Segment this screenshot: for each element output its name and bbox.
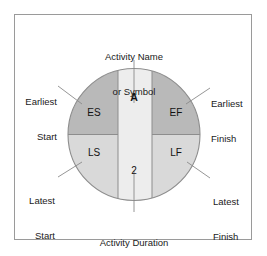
leader-line-latest-finish <box>187 162 210 178</box>
cell-label-lf: LF <box>159 147 193 158</box>
callout-latest-finish-line2: Finish <box>213 231 267 243</box>
callout-latest-start-line2: Start <box>0 230 55 242</box>
callout-earliest-start-line1: Earliest <box>0 96 57 108</box>
callout-earliest-start: Earliest Start <box>0 73 57 165</box>
activity-duration-label: 2 <box>119 165 149 176</box>
leader-line-earliest-finish <box>186 88 210 104</box>
callout-latest-finish: Latest Finish <box>213 173 267 256</box>
callout-earliest-finish-line1: Earliest <box>211 98 267 110</box>
callout-earliest-finish: Earliest Finish <box>211 75 267 167</box>
callout-latest-start-line1: Latest <box>0 195 55 207</box>
diagram-page: A 2 ES EF LS LF Activity Name or Symbol … <box>0 0 267 256</box>
callout-activity-name-line2: or Symbol <box>79 86 189 98</box>
callout-latest-start: Latest Start <box>0 172 55 256</box>
callout-activity-name: Activity Name or Symbol <box>79 28 189 120</box>
callout-earliest-start-line2: Start <box>0 131 57 143</box>
callout-activity-duration: Activity Duration <box>74 214 194 256</box>
quadrant-ls-fill <box>66 135 118 203</box>
callout-activity-duration-line1: Activity Duration <box>74 237 194 249</box>
callout-latest-finish-line1: Latest <box>213 196 267 208</box>
cell-label-ls: LS <box>77 147 111 158</box>
callout-activity-name-line1: Activity Name <box>79 51 189 63</box>
callout-earliest-finish-line2: Finish <box>211 133 267 145</box>
